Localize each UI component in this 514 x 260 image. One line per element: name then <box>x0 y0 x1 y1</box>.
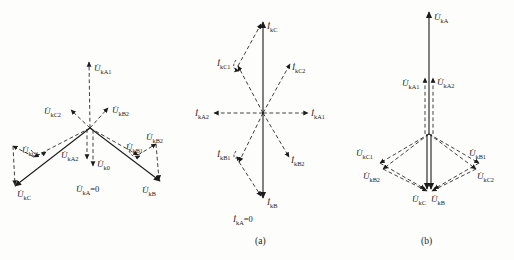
vector-u-kc2 <box>71 110 90 128</box>
label-u-kc: U̇kC <box>17 189 31 201</box>
phasor-subscript: kC1 <box>29 150 40 157</box>
label-u-k0: U̇k0 <box>97 159 110 171</box>
vector-u-kc <box>15 128 90 186</box>
construction-i-kb2-translated <box>239 162 261 196</box>
leader-arrow-i-kb1 <box>234 151 241 158</box>
construction-u-kb-drop <box>156 144 159 180</box>
phasor-subscript: k0 <box>104 164 110 171</box>
diagram-middle-currents: İkC İkC1 İkC2 İkA2 İkA1 İkB1 İkB2 İkB İk… <box>194 21 325 247</box>
label-u-kb2-inner: U̇kB2 <box>112 105 129 117</box>
phasor-subscript: kB2 <box>119 110 130 117</box>
vector-u-kb2 <box>90 108 108 128</box>
construction-i-kc2-translated <box>238 24 261 66</box>
vector-i-kc1 <box>238 66 263 113</box>
label-u-kc1: U̇kC1 <box>22 145 39 157</box>
phasor-subscript: kB1 <box>220 154 231 161</box>
phasor-subscript: kB <box>438 199 445 206</box>
vector-u-kc1-b <box>380 134 429 163</box>
phasor-subscript: kA2 <box>198 113 209 120</box>
label-i-kb: İkB <box>266 197 277 209</box>
phasor-subscript: kB2 <box>294 160 305 167</box>
label-u-kc-b: U̇kC <box>412 194 426 206</box>
label-u-kb: U̇kB <box>142 185 156 197</box>
vector-u-kb2-b <box>383 134 429 169</box>
phasor-subscript: kB <box>270 202 277 209</box>
phasor-subscript: kA1 <box>101 68 112 75</box>
construction-right-lower <box>432 169 476 191</box>
phasor-subscript: kB1 <box>476 153 487 160</box>
label-i-kb2: İkB2 <box>290 155 305 167</box>
label-i-ka-equals-zero: İkA=0 <box>232 214 253 226</box>
construction-u-kc-drop <box>13 146 15 185</box>
phasor-subscript: kB2 <box>153 137 164 144</box>
phasor-subscript: kC <box>419 199 426 206</box>
label-i-kc2: İkC2 <box>291 62 306 74</box>
construction-left-lower <box>383 169 427 191</box>
phasor-subscript: kA1 <box>314 113 325 120</box>
phasor-subscript: kC2 <box>484 176 495 183</box>
caption-a: (a) <box>255 236 266 247</box>
label-u-ka1: U̇kA1 <box>94 63 111 75</box>
vector-i-kc2 <box>263 64 290 113</box>
label-u-kb1: U̇kB1 <box>126 142 143 154</box>
label-i-kb1: İkB1 <box>216 149 231 161</box>
label-u-kb2-outer: U̇kB2 <box>146 132 163 144</box>
label-u-ka-equals-zero: U̇kA=0 <box>76 184 99 196</box>
phasor-subscript: kA <box>441 17 449 24</box>
label-u-kc1-b: U̇kC1 <box>356 148 373 160</box>
label-i-ka2: İkA2 <box>194 108 209 120</box>
equals-zero-text: =0 <box>90 184 99 194</box>
phasor-subscript: kB1 <box>133 147 144 154</box>
vector-i-kb2 <box>263 113 289 157</box>
label-u-kc2: U̇kC2 <box>44 106 61 118</box>
phasor-subscript: kC1 <box>363 153 374 160</box>
diagram-right-voltages: U̇kA U̇kA1 U̇kA2 U̇kC1 U̇kB2 U̇kB1 U̇kC2… <box>356 12 494 247</box>
construction-right-upper <box>434 163 479 189</box>
label-u-ka-b: U̇kA <box>434 12 449 24</box>
phasor-subscript: kC1 <box>220 63 231 70</box>
phasor-subscript: kC <box>24 194 31 201</box>
construction-left-upper <box>380 163 425 189</box>
caption-b: (b) <box>421 236 432 247</box>
phasor-subscript: kB <box>149 190 156 197</box>
vector-i-kb1 <box>239 113 263 162</box>
label-i-kc1: İkC1 <box>216 58 231 70</box>
label-i-kc: İkC <box>266 21 277 33</box>
phasor-subscript: kA1 <box>409 83 420 90</box>
label-u-ka2: U̇kA2 <box>61 150 78 162</box>
phasor-subscript: kC2 <box>295 67 306 74</box>
phasor-subscript: kA2 <box>444 82 455 89</box>
equals-zero-text: =0 <box>244 214 253 224</box>
phasor-diagram-figure: U̇kA1 U̇kC2 U̇kB2 U̇kA2 U̇k0 U̇kC1 U̇kB1… <box>0 0 514 260</box>
label-u-kc2-b: U̇kC2 <box>477 171 494 183</box>
label-i-ka1: İkA1 <box>310 108 325 120</box>
phasor-subscript: kC2 <box>51 111 62 118</box>
phasor-subscript: kA2 <box>68 155 79 162</box>
diagram-left-voltages: U̇kA1 U̇kC2 U̇kB2 U̇kA2 U̇k0 U̇kC1 U̇kB1… <box>13 62 163 201</box>
label-u-ka1-b: U̇kA1 <box>402 78 419 90</box>
label-u-kb2-b: U̇kB2 <box>363 171 380 183</box>
phasor-diagrams-canvas: U̇kA1 U̇kC2 U̇kB2 U̇kA2 U̇k0 U̇kC1 U̇kB1… <box>0 0 514 260</box>
phasor-subscript: kB2 <box>370 176 381 183</box>
vector-u-ka1 <box>89 62 90 128</box>
label-u-kb1-b: U̇kB1 <box>469 148 486 160</box>
label-u-kb-b: U̇kB <box>431 194 445 206</box>
phasor-subscript: kC <box>270 26 277 33</box>
label-u-ka2-b: U̇kA2 <box>437 77 454 89</box>
